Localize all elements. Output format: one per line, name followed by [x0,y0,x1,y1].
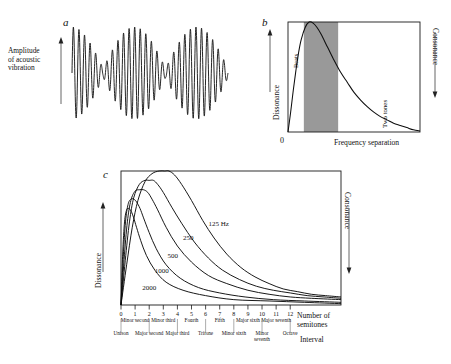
panel-c-interval-leader-lines [121,319,290,333]
panel-c-tick-marks [121,305,290,310]
panel-c-curve-1000 [121,199,341,305]
panel-a-waveform [72,27,228,119]
panel-c-curve-500 [121,190,341,305]
panel-c-y-arrow-right [347,208,352,274]
panel-a-y-arrow [59,37,64,104]
panel-c-curves [121,171,341,305]
panel-c-curve-250 [121,180,341,305]
figure-root: a Amplitude of acoustic vibration b Diss… [0,0,451,364]
panel-c-curve-2000 [121,208,341,305]
panel-a-plot [0,0,240,140]
panel-b-roughness-shade [304,22,338,132]
panel-b-y-arrow [268,29,273,92]
panel-b-plot [230,0,451,150]
panel-b-y-arrow-right [433,32,438,98]
panel-c-y-arrow [101,202,106,272]
panel-c-plot [60,160,451,364]
